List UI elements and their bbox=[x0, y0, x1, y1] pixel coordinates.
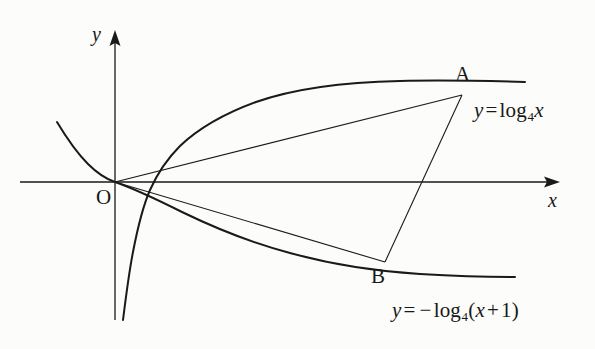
chord-oa bbox=[115, 95, 462, 182]
y-axis bbox=[110, 30, 121, 320]
upper-eq-argument: x bbox=[534, 98, 544, 122]
lower-eq-one: 1 bbox=[501, 298, 512, 322]
chord-ob bbox=[115, 182, 385, 262]
lower-eq-plus: + bbox=[485, 298, 501, 322]
x-axis-label: x bbox=[548, 190, 557, 210]
log4x-curve bbox=[123, 81, 525, 320]
origin-label: O bbox=[96, 187, 111, 208]
point-label-a: A bbox=[455, 64, 470, 85]
point-label-b: B bbox=[371, 266, 385, 287]
y-axis-label: y bbox=[92, 24, 101, 44]
upper-curve-equation: y=log4x bbox=[474, 100, 544, 123]
lower-curve-equation: y=−log4(x+1) bbox=[392, 300, 519, 323]
segment-ab bbox=[385, 95, 462, 262]
lower-eq-lhs: y bbox=[392, 298, 402, 322]
math-figure: y x O A B y=log4x y=−log4(x+1) bbox=[0, 0, 595, 349]
upper-eq-function: log bbox=[500, 98, 527, 122]
lower-eq-close-paren: ) bbox=[512, 298, 519, 322]
upper-eq-lhs: y bbox=[474, 98, 484, 122]
neg-log4-x-plus-1-curve bbox=[57, 122, 515, 277]
lower-eq-function: log bbox=[434, 298, 461, 322]
lower-eq-equals: = bbox=[402, 298, 418, 322]
lower-eq-minus: − bbox=[418, 298, 434, 322]
upper-eq-equals: = bbox=[484, 98, 500, 122]
figure-canvas bbox=[0, 0, 595, 349]
lower-eq-argument: x bbox=[475, 298, 485, 322]
